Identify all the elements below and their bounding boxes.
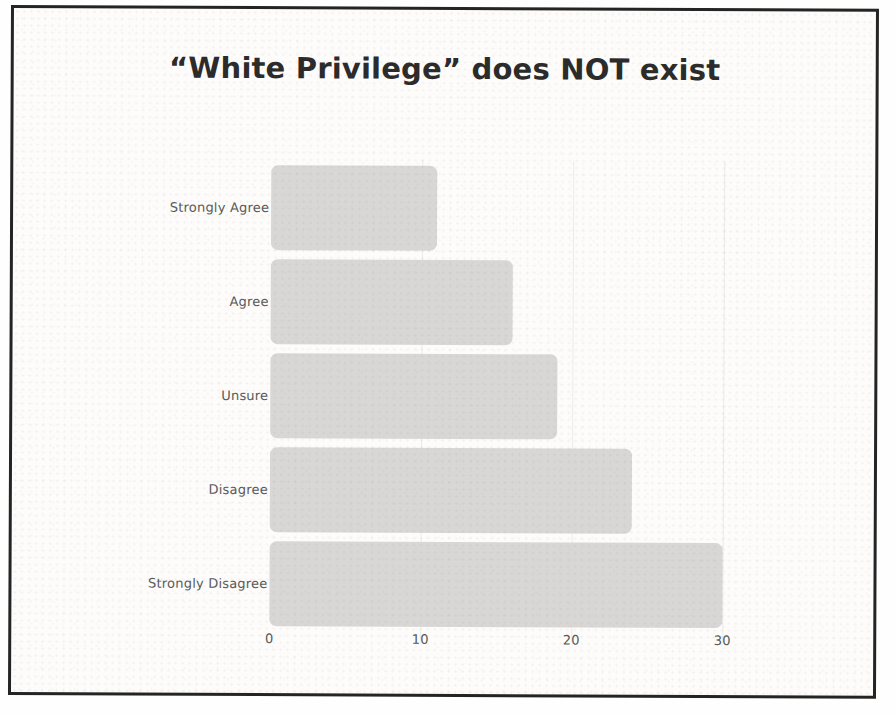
bar-row: Agree <box>13 258 875 347</box>
bar-row: Disagree <box>12 446 874 535</box>
bar <box>269 541 722 628</box>
chart-frame: “White Privilege” does NOT exist Strongl… <box>8 5 879 699</box>
plot-area: Strongly AgreeAgreeUnsureDisagreeStrongl… <box>11 8 876 696</box>
bar <box>271 165 437 251</box>
bar-row: Strongly Agree <box>13 164 875 253</box>
category-label: Disagree <box>12 481 268 497</box>
category-label: Agree <box>13 293 269 309</box>
bar <box>271 259 513 345</box>
photo-page: “White Privilege” does NOT exist Strongl… <box>0 0 895 714</box>
category-label: Strongly Agree <box>13 199 269 215</box>
x-tick-label: 0 <box>265 631 274 646</box>
bar-row: Strongly Disagree <box>11 540 873 629</box>
bar <box>270 353 557 439</box>
x-tick-label: 10 <box>412 632 429 647</box>
gridlines <box>14 8 876 12</box>
bar-row: Unsure <box>12 352 874 441</box>
category-label: Unsure <box>12 387 268 403</box>
category-label: Strongly Disagree <box>11 575 267 591</box>
x-tick-label: 30 <box>714 633 731 648</box>
bar <box>270 447 633 534</box>
bars-container: Strongly AgreeAgreeUnsureDisagreeStrongl… <box>11 164 875 638</box>
x-tick-label: 20 <box>563 632 580 647</box>
